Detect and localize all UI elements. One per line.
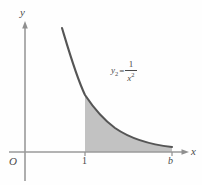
curve-equation-label: y2 = 1 x2 [111,60,137,83]
equation-fraction: 1 x2 [125,60,136,83]
equation-denominator-exponent: 2 [131,71,134,78]
equation-numerator: 1 [127,60,136,70]
equation-lhs-subscript: 2 [115,70,118,77]
x-axis-arrow-icon [182,149,190,155]
x-tick-label-1: 1 [82,156,87,166]
figure-container: y x O 1 b y2 = 1 x2 [0,0,202,185]
x-tick-label-b: b [168,156,173,166]
equation-denominator: x2 [125,71,136,83]
y-axis-arrow-icon [22,21,28,29]
shaded-area-under-curve [85,95,172,152]
y-axis-label: y [20,7,25,18]
equation-lhs: y2 [111,66,118,77]
equation-equals-sign: = [119,67,124,76]
origin-label: O [9,156,17,167]
curve-y2 [62,28,172,147]
x-axis-label: x [191,146,196,157]
